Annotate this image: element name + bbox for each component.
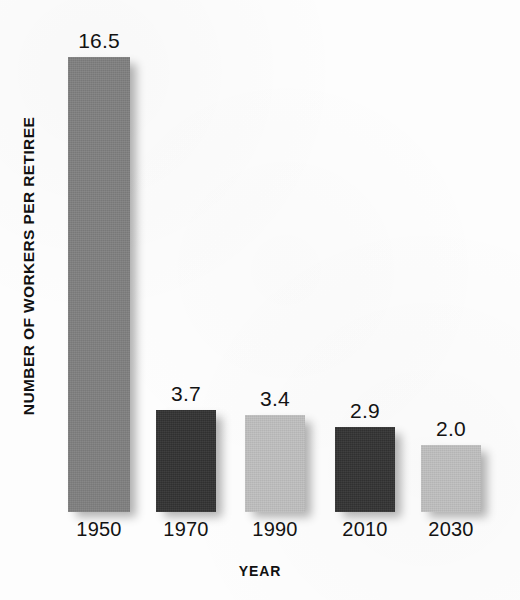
x-axis-tick-label: 2010 <box>342 518 387 541</box>
y-axis-title: NUMBER OF WORKERS PER RETIREE <box>14 56 44 476</box>
x-axis-tick-label: 1970 <box>163 518 208 541</box>
x-axis-tick-label: 1990 <box>252 518 297 541</box>
bar-value-label: 16.5 <box>78 29 120 53</box>
x-axis-title: YEAR <box>0 563 520 579</box>
bar-rect <box>68 57 130 512</box>
bar-rect <box>156 410 216 512</box>
bar-chart-figure: NUMBER OF WORKERS PER RETIREE 16.519503.… <box>0 0 520 600</box>
bar-value-label: 2.0 <box>436 417 466 441</box>
bar-group: 3.4 <box>245 415 305 512</box>
plot-area: 16.519503.719703.419902.920102.02030 <box>0 0 520 600</box>
bar-value-label: 3.4 <box>260 387 290 411</box>
x-axis-tick-label: 2030 <box>428 518 473 541</box>
bar-rect <box>335 427 395 512</box>
bar-rect <box>245 415 305 512</box>
bar-group: 16.5 <box>68 57 130 512</box>
x-axis-tick-label: 1950 <box>76 518 121 541</box>
bar-group: 2.0 <box>421 445 481 512</box>
bar-value-label: 3.7 <box>171 382 201 406</box>
bar-group: 3.7 <box>156 410 216 512</box>
bar-value-label: 2.9 <box>350 399 380 423</box>
bar-group: 2.9 <box>335 427 395 512</box>
bar-rect <box>421 445 481 512</box>
